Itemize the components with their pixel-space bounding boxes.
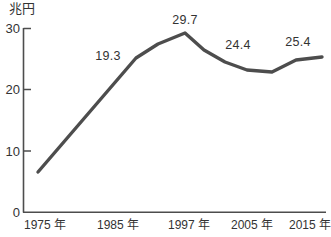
x-axis-tick-label-1975: 1975 年 bbox=[24, 219, 66, 232]
x-axis-tick-label-1985: 1985 年 bbox=[97, 219, 139, 232]
data-label-1997: 29.7 bbox=[172, 14, 198, 27]
data-label-1985: 19.3 bbox=[95, 50, 121, 63]
x-axis-tick-label-2015: 2015 年 bbox=[289, 219, 331, 232]
data-label-2015: 25.4 bbox=[285, 36, 311, 49]
x-axis-tick-label-1997: 1997 年 bbox=[168, 219, 210, 232]
data-label-2005: 24.4 bbox=[225, 39, 251, 52]
data-line-series bbox=[38, 33, 322, 172]
axis-lines bbox=[23, 28, 326, 213]
x-axis-tick-label-2005: 2005 年 bbox=[231, 219, 273, 232]
